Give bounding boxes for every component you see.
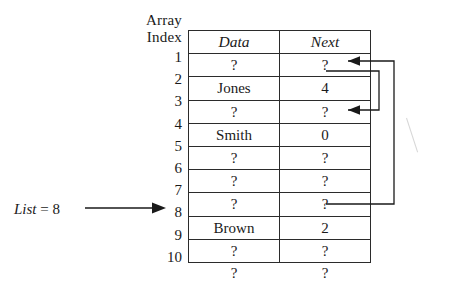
cell-data-row-7: ?: [189, 193, 280, 216]
array-index-column: Array Index 12345678910: [96, 12, 182, 268]
table-row: ??: [189, 54, 371, 77]
list-pointer-label: List = 8: [14, 200, 60, 218]
cell-data-row-6: ?: [189, 170, 280, 193]
cell-data-row-9: ?: [189, 239, 280, 262]
array-index-header-line1: Array: [96, 12, 182, 29]
table-row: ??: [189, 239, 371, 262]
cell-next-row-2: 4: [280, 77, 371, 100]
array-table: DataNext??Jones4??Smith0??????Brown2????: [188, 30, 371, 285]
array-index-header-line2: Index: [96, 29, 182, 46]
array-index-3: 3: [96, 90, 182, 112]
cell-next-row-6: ?: [280, 170, 371, 193]
table-row: ??: [189, 193, 371, 216]
list-pointer-value: = 8: [37, 201, 60, 217]
array-index-9: 9: [96, 224, 182, 246]
cell-data-row-10: ?: [189, 262, 280, 284]
array-index-7: 7: [96, 179, 182, 201]
table-row: ??: [189, 262, 371, 284]
cell-data-row-4: Smith: [189, 123, 280, 146]
list-pointer-variable: List: [14, 201, 37, 217]
diagram-canvas: Array Index 12345678910 List = 8 DataNex…: [0, 0, 455, 301]
cell-data-row-2: Jones: [189, 77, 280, 100]
cell-next-row-3: ?: [280, 100, 371, 123]
cell-data-row-1: ?: [189, 54, 280, 77]
column-header-next: Next: [280, 31, 371, 54]
table-row: ??: [189, 146, 371, 169]
array-index-2: 2: [96, 68, 182, 90]
cell-next-row-1: ?: [280, 54, 371, 77]
table-row: ??: [189, 170, 371, 193]
cell-data-row-5: ?: [189, 146, 280, 169]
cell-next-row-9: ?: [280, 239, 371, 262]
array-index-4: 4: [96, 113, 182, 135]
table-row: Jones4: [189, 77, 371, 100]
cell-next-row-8: 2: [280, 216, 371, 239]
array-index-5: 5: [96, 135, 182, 157]
cell-next-row-10: ?: [280, 262, 371, 284]
table-row: Brown2: [189, 216, 371, 239]
cell-data-row-8: Brown: [189, 216, 280, 239]
cell-next-row-4: 0: [280, 123, 371, 146]
cell-data-row-3: ?: [189, 100, 280, 123]
array-index-6: 6: [96, 157, 182, 179]
table-row: ??: [189, 100, 371, 123]
cell-next-row-5: ?: [280, 146, 371, 169]
array-index-1: 1: [96, 46, 182, 68]
cell-next-row-7: ?: [280, 193, 371, 216]
array-index-number-list: 12345678910: [96, 46, 182, 268]
table-row: Smith0: [189, 123, 371, 146]
scan-streak-artifact: [406, 118, 418, 153]
column-header-data: Data: [189, 31, 280, 54]
table-header-row: DataNext: [189, 31, 371, 54]
array-index-8: 8: [96, 201, 182, 223]
array-index-10: 10: [96, 246, 182, 268]
